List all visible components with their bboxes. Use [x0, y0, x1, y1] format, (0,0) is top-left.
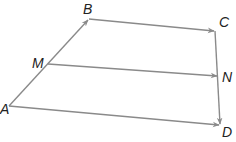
vector-mn — [48, 64, 217, 76]
vector-diagram: A B C M N D — [0, 0, 236, 142]
point-label-d: D — [222, 124, 232, 140]
vector-ab — [9, 20, 88, 106]
vector-bc — [89, 19, 214, 31]
point-label-n: N — [222, 69, 233, 85]
point-label-c: C — [219, 14, 230, 30]
point-label-b: B — [83, 1, 92, 17]
vector-ad — [9, 106, 219, 125]
point-label-m: M — [32, 55, 44, 71]
point-label-a: A — [0, 101, 9, 117]
vector-cd — [215, 31, 220, 124]
